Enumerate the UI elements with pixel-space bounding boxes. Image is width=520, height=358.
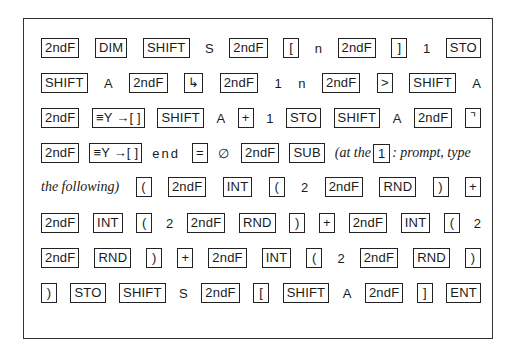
calculator-key: 2ndF — [241, 143, 279, 163]
calculator-key: 2ndF — [187, 213, 225, 233]
calculator-key: + — [465, 177, 481, 197]
calculator-key: ≡Y →[ ] — [89, 143, 142, 163]
calculator-key: SHIFT — [119, 283, 166, 303]
calculator-key: 2ndF — [168, 177, 206, 197]
calculator-key: ( — [269, 177, 285, 197]
calculator-key: + — [177, 248, 193, 268]
calculator-key: 2ndF — [41, 108, 79, 128]
typed-character: S — [205, 41, 214, 56]
keystroke-row: SHIFTA2ndF↳2ndF1n2ndF>SHIFTA — [41, 72, 481, 94]
calculator-key: RND — [379, 177, 416, 197]
keystroke-row: 2ndF≡Y →[ ]SHIFTA+1STOSHIFTA2ndF⌝ — [41, 107, 481, 129]
calculator-key: ) — [146, 248, 162, 268]
calculator-key: 2ndF — [349, 213, 387, 233]
calculator-key: SHIFT — [283, 283, 330, 303]
calculator-key: ] — [391, 38, 407, 58]
typed-character: n — [298, 76, 305, 91]
calculator-key: 2ndF — [41, 38, 79, 58]
calculator-key: 2ndF — [41, 248, 79, 268]
typed-character: 1 — [266, 111, 273, 126]
typed-character: A — [472, 76, 481, 91]
calculator-key: SHIFT — [157, 108, 204, 128]
calculator-key: STO — [70, 283, 105, 303]
typed-character: 2 — [301, 180, 308, 195]
calculator-key: RND — [94, 248, 131, 268]
calculator-key: [ — [253, 283, 269, 303]
calculator-key: > — [377, 73, 393, 93]
calculator-key: ( — [136, 213, 152, 233]
calculator-key: SHIFT — [41, 73, 88, 93]
calculator-key: 2ndF — [360, 248, 398, 268]
calculator-key: 2ndF — [41, 213, 79, 233]
calculator-key: SHIFT — [143, 38, 190, 58]
calculator-key: INT — [223, 177, 253, 197]
calculator-key: + — [319, 213, 335, 233]
calculator-key: ↳ — [184, 73, 203, 93]
calculator-key: ENT — [446, 283, 481, 303]
calculator-key: [ — [283, 38, 299, 58]
typed-character: 2 — [474, 216, 481, 231]
calculator-key: ) — [289, 213, 305, 233]
calculator-key: ( — [136, 177, 152, 197]
calculator-key: RND — [239, 213, 276, 233]
calculator-key: = — [192, 143, 208, 163]
calculator-key: 2ndF — [41, 143, 79, 163]
keystroke-row: 2ndFRND)+2ndFINT(22ndFRND) — [41, 247, 481, 269]
calculator-key: INT — [93, 213, 123, 233]
typed-character: S — [179, 286, 188, 301]
calculator-key: 2ndF — [365, 283, 403, 303]
calculator-key: SUB — [289, 143, 324, 163]
calculator-key: STO — [446, 38, 481, 58]
typed-character: ∅ — [218, 146, 229, 161]
calculator-key: ) — [465, 248, 481, 268]
calculator-key: ( — [444, 213, 460, 233]
typed-character: A — [343, 286, 352, 301]
calculator-key: 2ndF — [201, 283, 239, 303]
typed-character: n — [315, 41, 322, 56]
keystroke-row: )STOSHIFTS2ndF[SHIFTA2ndF]ENT — [41, 282, 481, 304]
calculator-key: ⌝ — [465, 108, 481, 128]
calculator-key: INT — [401, 213, 431, 233]
typed-character: end — [152, 146, 180, 161]
calculator-key: 2ndF — [338, 38, 376, 58]
note-text: : prompt, type — [392, 145, 470, 161]
calculator-key: 2ndF — [322, 73, 360, 93]
keystroke-row: 2ndF≡Y →[ ]end=∅2ndFSUB(at the 1: prompt… — [41, 142, 471, 164]
instruction-note: (at the 1: prompt, type — [335, 144, 471, 163]
calculator-key: 2ndF — [229, 38, 267, 58]
typed-character: 1 — [275, 76, 282, 91]
calculator-key: SHIFT — [334, 108, 381, 128]
keystroke-row: 2ndFINT(22ndFRND)+2ndFINT(2 — [41, 212, 481, 234]
keystroke-row: the following)(2ndFINT(22ndFRND)+ — [41, 176, 481, 198]
typed-character: A — [216, 111, 225, 126]
calculator-key: ( — [306, 248, 322, 268]
calculator-key: ) — [41, 283, 57, 303]
calculator-key: 2ndF — [414, 108, 452, 128]
note-text: (at the — [335, 145, 371, 161]
typed-character: A — [104, 76, 113, 91]
calculator-key: 2ndF — [129, 73, 167, 93]
calculator-key: ≡Y →[ ] — [92, 108, 145, 128]
calculator-key: SHIFT — [409, 73, 456, 93]
calculator-key: 2ndF — [220, 73, 258, 93]
typed-character: 1 — [423, 41, 430, 56]
typed-character: A — [393, 111, 402, 126]
calculator-key: DIM — [95, 38, 127, 58]
calculator-key: ] — [417, 283, 433, 303]
calculator-key: STO — [286, 108, 321, 128]
calculator-key: 2ndF — [325, 177, 363, 197]
calculator-key: ) — [433, 177, 449, 197]
typed-character: 2 — [166, 216, 173, 231]
calculator-key: 2ndF — [208, 248, 246, 268]
keystroke-row: 2ndFDIMSHIFTS2ndF[n2ndF]1STO — [41, 37, 481, 59]
prompt-key: 1 — [373, 144, 390, 163]
instruction-note: the following) — [41, 179, 119, 195]
typed-character: 2 — [337, 251, 344, 266]
calculator-key: RND — [413, 248, 450, 268]
calculator-key: + — [238, 108, 254, 128]
calculator-key: INT — [262, 248, 292, 268]
